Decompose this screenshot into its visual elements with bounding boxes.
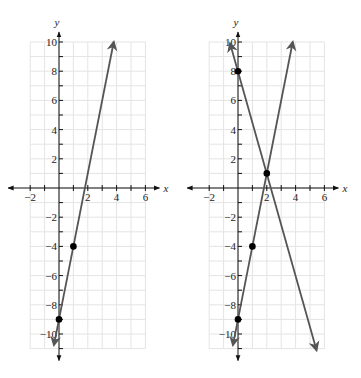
data-point xyxy=(70,243,77,250)
x-tick-label: 4 xyxy=(293,191,299,203)
y-axis-label: y xyxy=(233,16,239,28)
data-point xyxy=(235,316,242,323)
x-tick-label: 6 xyxy=(322,191,328,203)
y-tick-label: −4 xyxy=(224,240,236,252)
left-graph: −2246108642−2−4−6−8−10xy xyxy=(8,16,168,361)
y-axis-label: y xyxy=(54,16,60,28)
y-tick-label: 4 xyxy=(52,124,58,136)
y-tick-label: 2 xyxy=(52,153,58,165)
y-tick-label: 2 xyxy=(231,153,237,165)
x-tick-label: 6 xyxy=(143,191,149,203)
y-tick-label: 6 xyxy=(52,94,58,106)
y-tick-label: 6 xyxy=(231,94,237,106)
y-tick-label: 10 xyxy=(46,36,58,48)
y-tick-label: 8 xyxy=(52,65,58,77)
data-point xyxy=(264,170,271,177)
chart-canvas: −2246108642−2−4−6−8−10xy −2246108642−2−4… xyxy=(0,0,361,378)
x-tick-label: 2 xyxy=(85,191,91,203)
x-axis-label: x xyxy=(162,182,168,194)
y-tick-label: −6 xyxy=(224,270,236,282)
y-tick-label: −6 xyxy=(45,270,57,282)
y-tick-label: −4 xyxy=(45,240,57,252)
x-tick-label: 4 xyxy=(114,191,120,203)
x-tick-label: −2 xyxy=(203,191,215,203)
y-tick-label: −8 xyxy=(224,299,236,311)
series-line-0 xyxy=(54,42,114,345)
y-tick-label: 4 xyxy=(231,124,237,136)
series-line-1 xyxy=(230,43,316,350)
data-point xyxy=(235,68,242,75)
x-tick-label: 2 xyxy=(264,191,270,203)
y-tick-label: −2 xyxy=(224,211,236,223)
data-point xyxy=(56,316,63,323)
x-tick-label: −2 xyxy=(24,191,36,203)
data-point xyxy=(249,243,256,250)
y-tick-label: −8 xyxy=(45,299,57,311)
x-axis-label: x xyxy=(341,182,347,194)
right-graph: −2246108642−2−4−6−8−10xy xyxy=(187,16,347,361)
y-tick-label: −2 xyxy=(45,211,57,223)
